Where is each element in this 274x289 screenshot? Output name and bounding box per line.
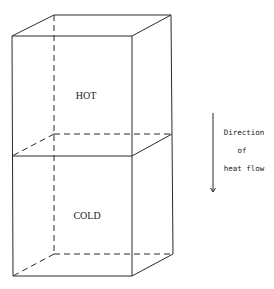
hot-label: HOT (76, 90, 97, 101)
box-hidden-edges (12, 15, 173, 276)
heat-flow-label: heat flow (224, 164, 265, 173)
heat-flow-diagram: HOT COLD Direction of heat flow (0, 0, 274, 289)
of-label: of (237, 146, 246, 155)
box-visible-edges (12, 15, 173, 276)
direction-label: Direction (224, 128, 265, 137)
heat-flow-arrow (211, 113, 216, 192)
cold-label: COLD (73, 210, 100, 221)
